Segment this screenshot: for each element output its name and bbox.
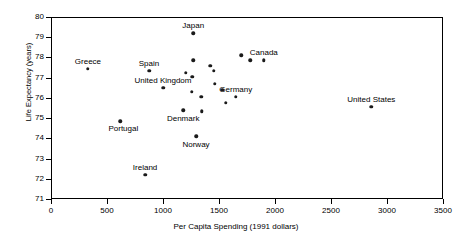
y-tick-mark (46, 179, 51, 180)
x-tick-label: 2500 (322, 207, 340, 215)
data-point (200, 109, 204, 113)
data-point (190, 90, 194, 94)
x-tick-mark (107, 199, 108, 204)
data-point-ireland (143, 173, 147, 177)
data-point-japan (191, 31, 195, 35)
y-tick-mark (46, 159, 51, 160)
x-tick-mark (219, 199, 220, 204)
x-tick-mark (51, 199, 52, 204)
point-label-germany: Germany (219, 86, 252, 95)
y-tick-mark (46, 57, 51, 58)
data-point (191, 59, 195, 63)
point-label-portugal: Portugal (108, 125, 138, 134)
x-tick-label: 3000 (378, 207, 396, 215)
y-tick-label: 78 (22, 53, 44, 61)
y-tick-mark (46, 37, 51, 38)
x-tick-mark (275, 199, 276, 204)
y-tick-mark (46, 78, 51, 79)
data-point-canada (262, 59, 266, 63)
point-label-ireland: Ireland (133, 164, 157, 173)
data-point-denmark (181, 108, 185, 112)
x-tick-label: 1500 (210, 207, 228, 215)
data-point-united-kingdom (161, 86, 165, 90)
data-point (221, 88, 225, 92)
data-point (184, 71, 188, 75)
y-tick-mark (46, 98, 51, 99)
data-point (190, 75, 194, 79)
plot-area (51, 17, 443, 199)
y-tick-label: 71 (22, 195, 44, 203)
y-tick-label: 73 (22, 155, 44, 163)
y-tick-mark (46, 17, 51, 18)
scatter-chart: Life Expectancy (years) 7172737475767778… (0, 0, 472, 249)
data-point (208, 64, 212, 68)
y-tick-label: 76 (22, 94, 44, 102)
x-tick-label: 500 (100, 207, 113, 215)
x-axis-title: Per Capita Spending (1991 dollars) (0, 222, 472, 231)
data-point-portugal (119, 119, 123, 123)
y-tick-label: 75 (22, 114, 44, 122)
x-tick-label: 0 (49, 207, 53, 215)
x-tick-label: 2000 (266, 207, 284, 215)
y-tick-mark (46, 138, 51, 139)
data-point-germany (234, 95, 238, 99)
data-point-norway (194, 135, 198, 139)
point-label-canada: Canada (250, 49, 278, 58)
point-label-greece: Greece (75, 58, 101, 67)
data-point (249, 59, 253, 63)
data-point (213, 82, 217, 86)
y-tick-label: 72 (22, 175, 44, 183)
x-tick-mark (387, 199, 388, 204)
x-tick-mark (163, 199, 164, 204)
point-label-spain: Spain (139, 60, 159, 69)
data-point-united-states (370, 105, 374, 109)
point-label-japan: Japan (182, 22, 204, 31)
data-point (240, 54, 244, 58)
data-point (212, 69, 216, 73)
x-tick-label: 1000 (154, 207, 172, 215)
data-point (224, 101, 228, 105)
y-tick-label: 74 (22, 134, 44, 142)
data-point (199, 95, 203, 99)
data-point-greece (86, 67, 90, 71)
x-tick-mark (443, 199, 444, 204)
point-label-denmark: Denmark (167, 115, 199, 124)
y-tick-label: 77 (22, 74, 44, 82)
y-tick-label: 79 (22, 33, 44, 41)
x-tick-label: 3500 (434, 207, 452, 215)
data-point-spain (147, 69, 151, 73)
x-tick-mark (331, 199, 332, 204)
point-label-united-states: United States (347, 96, 395, 105)
y-tick-mark (46, 118, 51, 119)
point-label-united-kingdom: United Kingdom (135, 77, 192, 86)
y-tick-label: 80 (22, 13, 44, 21)
point-label-norway: Norway (182, 141, 209, 150)
